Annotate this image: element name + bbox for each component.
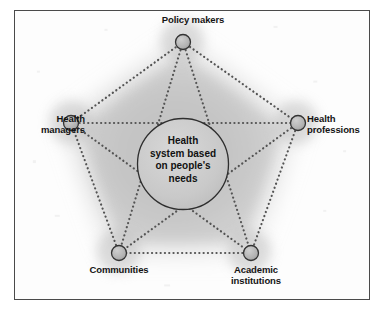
edge-managers-to-policy [71,42,183,123]
edge-policy-to-professions [183,42,298,123]
edge-professions-to-academic [251,123,298,253]
node-health-professions[interactable] [291,116,306,131]
node-label-health-professions: Health professions [307,113,370,135]
diagram-canvas [15,11,370,300]
node-policy-makers[interactable] [176,35,191,50]
node-label-academic-institutions: Academic institutions [201,264,311,286]
edge-communities-to-managers [71,123,119,253]
node-label-communities: Communities [63,264,175,275]
node-label-policy-makers: Policy makers [15,14,370,25]
node-academic-institutions[interactable] [244,246,259,261]
figure-frame: Health system based on people's needs Po… [14,10,370,300]
node-communities[interactable] [112,246,127,261]
figure-root: Health system based on people's needs Po… [0,0,381,311]
node-label-health-managers: Health managers [14,113,85,135]
center-circle [138,119,229,210]
